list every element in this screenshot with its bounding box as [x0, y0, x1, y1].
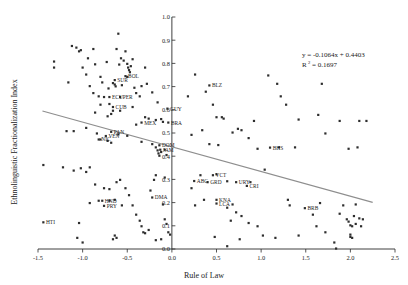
data-point — [315, 225, 317, 227]
data-point — [123, 60, 125, 62]
data-point — [349, 234, 351, 236]
data-point — [230, 220, 232, 222]
data-point — [98, 200, 100, 202]
data-point — [92, 48, 94, 50]
data-point — [75, 47, 77, 49]
data-point — [158, 155, 160, 157]
data-point — [167, 231, 169, 233]
data-point — [119, 179, 121, 181]
data-point-labeled — [103, 205, 105, 207]
data-point — [351, 237, 353, 239]
data-point — [80, 49, 82, 51]
data-point — [351, 225, 353, 227]
data-point-labeled — [235, 181, 237, 183]
data-point — [160, 118, 162, 120]
data-point — [85, 73, 87, 75]
data-point — [201, 129, 203, 131]
data-point-labeled — [108, 96, 110, 98]
data-point-labeled — [114, 79, 116, 81]
data-point — [194, 73, 196, 75]
data-point — [162, 203, 164, 205]
data-point — [103, 187, 105, 189]
data-point — [101, 81, 103, 83]
data-point — [240, 215, 242, 217]
data-point — [99, 104, 101, 106]
data-point — [317, 114, 319, 116]
data-point — [78, 222, 80, 224]
data-point — [355, 223, 357, 225]
data-point — [253, 120, 255, 122]
regression-line — [42, 111, 372, 202]
data-point — [231, 203, 233, 205]
data-point — [162, 121, 164, 123]
data-point — [135, 92, 137, 94]
data-point — [190, 187, 192, 189]
y-axis-title: Ethnolinguistic Fractionalization Index — [10, 79, 19, 204]
data-point — [128, 194, 130, 196]
regression-equation: y = -0.1064x + 0.4403 — [302, 51, 365, 59]
data-point — [294, 146, 296, 148]
x-tick-label: 2.0 — [346, 254, 354, 261]
data-point — [128, 69, 130, 71]
data-point — [164, 176, 166, 178]
data-point — [144, 66, 146, 68]
data-point — [144, 232, 146, 234]
data-point — [156, 101, 158, 103]
point-label: PRY — [107, 203, 117, 209]
data-point — [146, 83, 148, 85]
trendline — [42, 111, 372, 202]
data-point — [360, 225, 362, 227]
data-point — [237, 128, 239, 130]
data-point — [76, 237, 78, 239]
data-point — [355, 203, 357, 205]
data-point — [53, 66, 55, 68]
point-label: ABG — [197, 178, 208, 184]
y-tick-label: 0.9 — [162, 37, 170, 44]
data-point — [126, 135, 128, 137]
data-point — [135, 214, 137, 216]
data-point — [248, 137, 250, 139]
data-point — [240, 129, 242, 131]
data-point — [87, 57, 89, 59]
data-point — [115, 85, 117, 87]
data-point — [155, 239, 157, 241]
data-point — [157, 152, 159, 154]
data-point-labeled — [112, 106, 114, 108]
data-point — [99, 76, 101, 78]
data-point — [205, 91, 207, 93]
y-tick-label: 0.0 — [162, 245, 170, 252]
data-point-labeled — [215, 199, 217, 201]
data-point — [85, 171, 87, 173]
data-point — [140, 141, 142, 143]
data-point — [339, 213, 341, 215]
y-tick-label: 0.6 — [162, 106, 170, 113]
data-point — [339, 120, 341, 122]
data-point — [127, 66, 129, 68]
data-point — [235, 211, 237, 213]
data-point — [120, 57, 122, 59]
data-point — [117, 33, 119, 35]
data-point — [112, 110, 114, 112]
point-label: GRD — [210, 179, 221, 185]
data-point — [107, 115, 109, 117]
y-tick-label: 0.3 — [162, 176, 170, 183]
point-label: JAM — [163, 147, 174, 153]
data-point — [139, 220, 141, 222]
data-point — [353, 215, 355, 217]
data-point — [135, 124, 137, 126]
data-point — [132, 58, 134, 60]
x-tick-label: -0.5 — [122, 254, 132, 261]
data-point — [319, 202, 321, 204]
data-point — [94, 63, 96, 65]
data-point — [239, 238, 241, 240]
data-point — [256, 148, 258, 150]
data-point — [114, 234, 116, 236]
data-point — [130, 65, 132, 67]
data-point-labeled — [140, 121, 142, 123]
data-point — [149, 189, 151, 191]
data-point — [118, 63, 120, 65]
data-point-labeled — [208, 84, 210, 86]
data-point — [151, 91, 153, 93]
data-point — [155, 146, 157, 148]
data-point — [164, 218, 166, 220]
